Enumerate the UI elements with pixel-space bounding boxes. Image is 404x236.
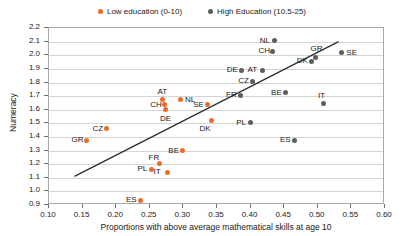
data-point xyxy=(260,68,265,73)
data-point xyxy=(180,148,185,153)
data-point-label: CH xyxy=(150,101,162,109)
data-point-label: CZ xyxy=(238,77,249,85)
data-point-label: CZ xyxy=(92,125,103,133)
data-point-label: BE xyxy=(168,147,179,155)
data-point xyxy=(138,198,143,203)
data-point-label: BE xyxy=(271,89,282,97)
legend-label: High Education (10.5-25) xyxy=(217,7,306,16)
data-point-label: IT xyxy=(154,168,161,176)
data-point-label: DE xyxy=(160,115,171,123)
y-axis-tick-label: 1.2 xyxy=(0,159,40,167)
series-dot-icon xyxy=(98,9,103,14)
data-point xyxy=(283,90,288,95)
data-point-label: SE xyxy=(193,101,204,109)
data-point xyxy=(163,107,168,112)
series-dot-icon xyxy=(208,9,213,14)
y-axis-tick-label: 0.9 xyxy=(0,200,40,208)
data-point xyxy=(239,68,244,73)
y-axis-tick-label: 1.1 xyxy=(0,173,40,181)
data-point-label: GR xyxy=(72,136,84,144)
data-point-label: FR xyxy=(149,154,160,162)
data-point xyxy=(250,79,255,84)
data-point-label: PL xyxy=(236,119,246,127)
y-axis-tick-label: 1.5 xyxy=(0,118,40,126)
data-point xyxy=(313,55,318,60)
y-axis-tick-label: 1.7 xyxy=(0,91,40,99)
data-point-label: AT xyxy=(248,66,258,74)
y-axis-tick-label: 1.4 xyxy=(0,132,40,140)
data-point xyxy=(160,97,165,102)
data-point xyxy=(209,118,214,123)
data-point-label: ES xyxy=(126,196,137,204)
data-point xyxy=(205,102,210,107)
y-axis-tick-label: 1.8 xyxy=(0,78,40,86)
x-axis-tick-label: 0.60 xyxy=(364,210,404,219)
data-point-label: ES xyxy=(280,136,291,144)
data-point xyxy=(84,138,89,143)
data-point-label: CH xyxy=(258,47,270,55)
data-point xyxy=(165,170,170,175)
data-point xyxy=(321,101,326,106)
data-point xyxy=(178,97,183,102)
data-point-label: PL xyxy=(137,165,147,173)
data-point-label: FR xyxy=(226,91,237,99)
data-points: GRCZESPLFRCHATDEITNLBESEDKPLFRCZDEATCHNL… xyxy=(49,28,383,203)
scatter-chart: Low education (0-10)High Education (10.5… xyxy=(0,0,404,236)
data-point xyxy=(272,38,277,43)
data-point-label: DK xyxy=(297,57,308,65)
plot-area: GRCZESPLFRCHATDEITNLBESEDKPLFRCZDEATCHNL… xyxy=(48,27,384,204)
data-point xyxy=(157,161,162,166)
legend-entry: Low education (0-10) xyxy=(98,7,182,16)
data-point xyxy=(248,120,253,125)
data-point-label: GR xyxy=(311,45,323,53)
legend-label: Low education (0-10) xyxy=(107,7,182,16)
data-point xyxy=(238,93,243,98)
data-point xyxy=(104,126,109,131)
y-axis-tick-label: 1.3 xyxy=(0,146,40,154)
data-point xyxy=(292,138,297,143)
data-point xyxy=(270,49,275,54)
chart-legend: Low education (0-10)High Education (10.5… xyxy=(0,4,404,18)
y-axis-tick-label: 1.9 xyxy=(0,64,40,72)
data-point-label: IT xyxy=(318,92,325,100)
data-point-label: DE xyxy=(227,66,238,74)
y-axis-tick-label: 1.0 xyxy=(0,186,40,194)
y-axis-tick-label: 1.6 xyxy=(0,105,40,113)
data-point-label: NL xyxy=(260,37,270,45)
data-point-label: SE xyxy=(346,49,357,57)
y-axis-tick-label: 2.0 xyxy=(0,50,40,58)
data-point-label: AT xyxy=(157,88,167,96)
data-point-label: DK xyxy=(200,125,211,133)
y-axis-tick-label: 2.2 xyxy=(0,23,40,31)
data-point xyxy=(309,59,314,64)
y-axis-tick-label: 2.1 xyxy=(0,37,40,45)
x-axis-title: Proportions with above average mathemati… xyxy=(48,222,384,232)
legend-entry: High Education (10.5-25) xyxy=(208,7,306,16)
data-point xyxy=(339,50,344,55)
